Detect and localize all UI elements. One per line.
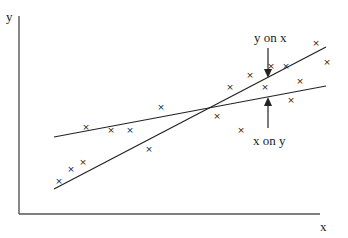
annotation-y-on-x-label: y on x bbox=[254, 31, 287, 44]
x-axis-label: x bbox=[320, 220, 327, 233]
y-axis-label: y bbox=[6, 10, 13, 23]
data-points: ××××××××××××××××××× bbox=[55, 38, 331, 186]
data-point-marker: × bbox=[312, 38, 320, 48]
data-point-marker: × bbox=[126, 125, 134, 135]
data-point-marker: × bbox=[145, 144, 153, 154]
annotation-x-on-y-label: x on y bbox=[253, 134, 286, 147]
regression-lines-diagram: ××××××××××××××××××× bbox=[0, 0, 348, 238]
data-point-marker: × bbox=[213, 111, 221, 121]
data-point-marker: × bbox=[296, 76, 304, 86]
data-point-marker: × bbox=[323, 57, 331, 67]
data-point-marker: × bbox=[246, 70, 254, 80]
regression-line-x-on-y bbox=[54, 86, 326, 137]
arrow-up-icon bbox=[264, 97, 272, 106]
data-point-marker: × bbox=[55, 176, 63, 186]
data-point-marker: × bbox=[261, 82, 269, 92]
data-point-marker: × bbox=[226, 82, 234, 92]
data-point-marker: × bbox=[157, 102, 165, 112]
data-point-marker: × bbox=[287, 95, 295, 105]
data-point-marker: × bbox=[237, 125, 245, 135]
data-point-marker: × bbox=[67, 164, 75, 174]
data-point-marker: × bbox=[82, 122, 90, 132]
data-point-marker: × bbox=[79, 157, 87, 167]
data-point-marker: × bbox=[107, 125, 115, 135]
data-point-marker: × bbox=[282, 61, 290, 71]
data-point-marker: × bbox=[267, 61, 275, 71]
